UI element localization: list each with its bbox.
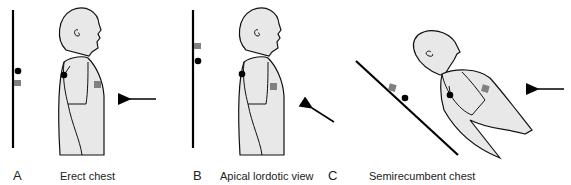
xray-beam-arrow-b <box>312 108 334 122</box>
panel-letter-a: A <box>13 168 22 183</box>
clavicle-dot-body-b <box>239 71 246 78</box>
panel-caption-c: Semirecumbent chest <box>369 170 475 182</box>
panel-caption-b: Apical lordotic view <box>220 170 314 182</box>
clavicle-dot-b <box>195 58 202 65</box>
clavicle-dot-c <box>402 95 409 102</box>
lesion-square-b <box>194 43 201 49</box>
head-a <box>59 8 101 56</box>
torso-c <box>441 70 532 158</box>
torso-a <box>59 57 104 155</box>
clavicle-dot-body-c <box>447 92 454 99</box>
head-b <box>239 8 281 56</box>
panel-b <box>193 8 334 155</box>
lesion-square-body-b <box>270 83 277 90</box>
clavicle-dot-a <box>15 68 22 75</box>
lesion-square-a <box>14 80 21 86</box>
panel-caption-a: Erect chest <box>60 170 115 182</box>
head-c <box>414 31 460 75</box>
panel-letter-c: C <box>328 168 337 183</box>
panel-letter-b: B <box>193 168 202 183</box>
panel-a <box>13 8 156 155</box>
panel-c <box>356 31 564 158</box>
radiograph-positioning-diagram <box>0 0 571 185</box>
torso-b <box>239 57 284 155</box>
clavicle-dot-body-a <box>61 72 68 79</box>
lesion-square-body-a <box>94 81 101 88</box>
